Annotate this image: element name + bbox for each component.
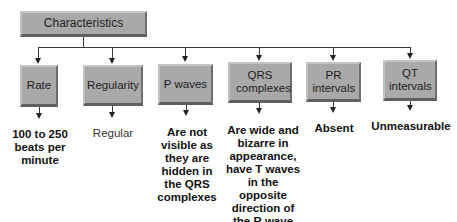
box-qrs-complexes: QRS complexes	[228, 62, 292, 103]
arrow-down-icon	[330, 55, 336, 61]
arrow-down-icon	[330, 107, 336, 113]
arrow-down-icon	[256, 108, 262, 114]
root-label: Characteristics	[44, 17, 123, 30]
arrow-down-icon	[109, 58, 115, 64]
horizontal-connector-line	[38, 47, 411, 48]
box-label: QT intervals	[389, 67, 431, 93]
arrow-down-icon	[182, 56, 188, 62]
description-qrs-complexes: Are wide and bizarre in appearance, have…	[224, 124, 302, 222]
description-rate: 100 to 250 beats per minute	[8, 128, 72, 167]
arrow-down-icon	[256, 55, 262, 61]
box-regularity: Regularity	[83, 65, 143, 106]
box-label: Regularity	[87, 79, 139, 92]
arrow-down-icon	[183, 110, 189, 116]
arrow-down-icon	[407, 53, 413, 59]
description-p-waves: Are not visible as they are hidden in th…	[156, 126, 218, 204]
arrow-down-icon	[36, 113, 42, 119]
description-qt-intervals: Unmeasurable	[371, 120, 451, 133]
box-qt-intervals: QT intervals	[383, 60, 437, 101]
box-label: QRS complexes	[236, 69, 284, 95]
arrow-down-icon	[35, 58, 41, 64]
box-label: Rate	[27, 79, 51, 92]
box-pr-intervals: PR intervals	[306, 62, 361, 102]
box-label: P waves	[164, 78, 207, 91]
arrow-down-icon	[109, 112, 115, 118]
description-regularity: Regular	[82, 127, 144, 140]
root-box-characteristics: Characteristics	[20, 11, 147, 37]
arrow-down-icon	[407, 105, 413, 111]
box-label: PR intervals	[313, 69, 355, 95]
box-rate: Rate	[20, 65, 58, 107]
box-p-waves: P waves	[158, 64, 213, 105]
description-pr-intervals: Absent	[306, 122, 362, 135]
